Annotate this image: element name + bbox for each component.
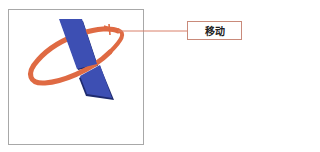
upper-bar — [59, 19, 97, 69]
callout-label-box: 移动 — [187, 21, 242, 40]
callout-label: 移动 — [205, 23, 225, 38]
orbit-ring-front — [110, 30, 122, 52]
